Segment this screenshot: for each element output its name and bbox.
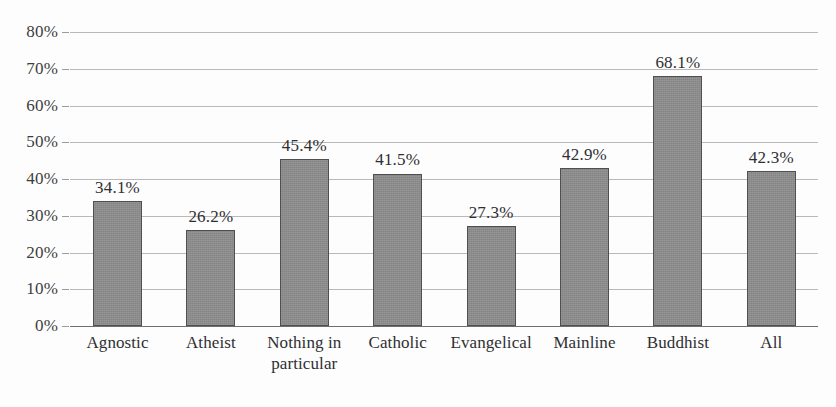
bar-value-label: 41.5% bbox=[343, 150, 453, 170]
y-axis-tick-label: 0% bbox=[0, 316, 58, 336]
gridline bbox=[70, 32, 818, 33]
bar-value-label: 26.2% bbox=[156, 207, 266, 227]
bar-value-label: 42.9% bbox=[530, 145, 640, 165]
bar-value-label: 27.3% bbox=[436, 203, 546, 223]
gridline bbox=[70, 253, 818, 254]
bar bbox=[560, 168, 609, 326]
y-axis-tick-mark bbox=[62, 32, 69, 33]
y-axis-tick-mark bbox=[62, 69, 69, 70]
y-axis-tick-mark bbox=[62, 289, 69, 290]
bar-value-label: 68.1% bbox=[623, 53, 733, 73]
x-axis-category-label: All bbox=[716, 332, 826, 353]
y-axis-tick-label: 30% bbox=[0, 206, 58, 226]
bar bbox=[747, 171, 796, 326]
y-axis-tick-mark bbox=[62, 253, 69, 254]
bar bbox=[467, 226, 516, 326]
chart-figure: 80%70%60%50%40%30%20%10%0%34.1%Agnostic2… bbox=[0, 0, 836, 407]
bar bbox=[280, 159, 329, 326]
bar bbox=[653, 76, 702, 326]
axis-baseline bbox=[70, 326, 818, 327]
gridline bbox=[70, 289, 818, 290]
y-axis-tick-mark bbox=[62, 106, 69, 107]
gridline bbox=[70, 179, 818, 180]
y-axis-tick-mark bbox=[62, 216, 69, 217]
y-axis-tick-label: 50% bbox=[0, 132, 58, 152]
gridline bbox=[70, 142, 818, 143]
y-axis-tick-label: 10% bbox=[0, 279, 58, 299]
y-axis-tick-mark bbox=[62, 142, 69, 143]
y-axis-tick-label: 60% bbox=[0, 96, 58, 116]
gridline bbox=[70, 106, 818, 107]
y-axis-tick-mark bbox=[62, 326, 69, 327]
bar bbox=[373, 174, 422, 327]
y-axis-tick-label: 40% bbox=[0, 169, 58, 189]
y-axis-tick-label: 70% bbox=[0, 59, 58, 79]
bar-value-label: 34.1% bbox=[63, 178, 173, 198]
chart-title-fragment bbox=[0, 0, 836, 4]
bar bbox=[93, 201, 142, 326]
y-axis-tick-label: 80% bbox=[0, 22, 58, 42]
bar bbox=[186, 230, 235, 326]
y-axis-tick-label: 20% bbox=[0, 243, 58, 263]
bar-value-label: 42.3% bbox=[716, 148, 826, 168]
plot-area bbox=[70, 32, 818, 326]
